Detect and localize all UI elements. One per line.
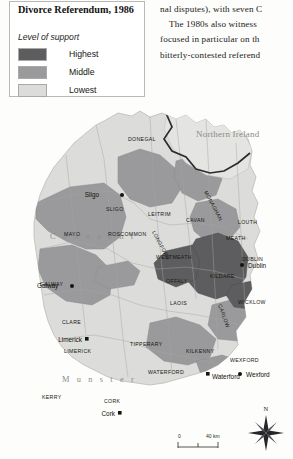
scale-bar: 0 40 km — [178, 433, 220, 448]
scale-bar-start: 0 — [178, 433, 181, 439]
label-city-waterford: Waterford — [212, 373, 240, 380]
label-city-cork: Cork — [102, 410, 116, 417]
legend-swatch-lowest — [18, 84, 47, 97]
label-county-westmeath: WESTMEATH — [156, 254, 192, 260]
legend-item-middle: Middle — [18, 64, 98, 80]
body-text-column: nal disputes), with seven C The 1980s al… — [160, 2, 293, 63]
city-dot-waterford — [206, 372, 210, 376]
label-county-louth: LOUTH — [238, 219, 257, 225]
body-text-line: The 1980s also witness — [160, 17, 293, 32]
legend-label-middle: Middle — [69, 67, 95, 77]
label-city-dublin: Dublin — [248, 262, 267, 269]
label-city-sligo: Sligo — [85, 191, 100, 199]
label-county-wexford: WEXFORD — [230, 357, 259, 363]
scale-bar-ticks — [178, 442, 218, 448]
legend-subtitle: Level of support — [18, 32, 79, 42]
label-county-sligo: SLIGO — [106, 206, 124, 212]
city-dot-limerick — [85, 337, 89, 341]
map-legend: Divorce Referendum, 1986 Level of suppor… — [9, 1, 145, 97]
label-city-limerick: Limerick — [58, 336, 83, 343]
legend-label-lowest: Lowest — [69, 85, 97, 95]
label-county-kilkenny: KILKENNY — [186, 348, 215, 354]
city-dot-dublin — [240, 263, 244, 267]
city-dot-cork — [118, 411, 122, 415]
body-text-line: bitterly-contested referend — [160, 48, 293, 63]
scale-bar-end: 40 km — [206, 433, 220, 439]
legend-swatch-highest — [18, 48, 47, 61]
label-county-wicklow: WICKLOW — [238, 299, 266, 305]
label-county-roscommon: ROSCOMMON — [108, 231, 147, 237]
label-city-galway: Galway — [37, 282, 59, 290]
legend-item-lowest: Lowest — [18, 82, 98, 98]
label-northern-ireland: Northern Ireland — [196, 129, 260, 139]
label-county-leitrim: LEITRIM — [148, 211, 171, 217]
body-text-line: nal disputes), with seven C — [160, 2, 293, 17]
book-page: nal disputes), with seven C The 1980s al… — [0, 0, 293, 459]
label-city-wexford: Wexford — [246, 371, 270, 378]
label-county-laois: LAOIS — [170, 300, 187, 306]
label-county-offaly: OFFALY — [166, 278, 188, 284]
body-text-line: focused in particular on th — [160, 32, 293, 47]
legend-items: Highest Middle Lowest — [18, 46, 98, 100]
ireland-choropleth-map: Northern Ireland C o n n a c h t M u n s… — [0, 99, 293, 459]
compass-star — [248, 415, 284, 451]
label-county-clare: CLARE — [62, 319, 81, 325]
label-county-cavan: CAVAN — [186, 217, 205, 223]
label-county-kildare: KILDARE — [210, 273, 235, 279]
label-county-waterford: WATERFORD — [148, 369, 184, 375]
label-county-mayo: MAYO — [64, 231, 80, 237]
city-dot-sligo — [120, 193, 124, 197]
label-county-meath: MEATH — [226, 235, 246, 241]
legend-title: Divorce Referendum, 1986 — [18, 4, 142, 16]
label-county-kerry: KERRY — [42, 394, 62, 400]
label-county-limerick: LIMERICK — [64, 348, 91, 354]
legend-swatch-middle — [18, 66, 47, 79]
compass-north-label: N — [264, 405, 269, 412]
legend-label-highest: Highest — [69, 49, 98, 59]
legend-item-highest: Highest — [18, 46, 98, 62]
label-county-donegal: DONEGAL — [128, 136, 156, 142]
label-county-cork: CORK — [104, 398, 121, 404]
label-county-tipperary: TIPPERARY — [130, 341, 163, 347]
label-province-munster: M u n s t e r — [62, 375, 136, 384]
city-dot-galway — [70, 284, 74, 288]
compass-rose: N — [248, 405, 284, 451]
